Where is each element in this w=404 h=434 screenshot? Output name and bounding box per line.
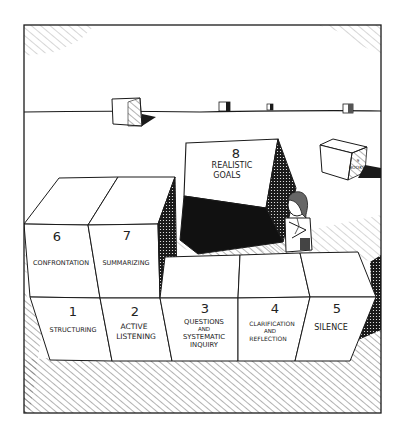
block-3-label-line1: QUESTIONS — [184, 318, 224, 326]
block-2-label-line1: ACTIVE — [121, 322, 148, 331]
block-3-label-line2: AND — [198, 326, 210, 332]
block-7-label: SUMMARIZING — [102, 259, 149, 267]
block-3-label-line3: SYSTEMATIC — [183, 333, 225, 341]
block-8-number: 8 — [232, 146, 240, 161]
block-5-number: 5 — [333, 301, 341, 316]
upper-row-blocks — [24, 177, 177, 298]
cartoon-illustration: 9 BOOKS — [0, 0, 404, 434]
block-4-number: 4 — [271, 301, 279, 316]
block-4-label-line1: CLARIFICATION — [249, 320, 294, 327]
books-box-number: 9 — [357, 158, 360, 163]
block-8-label-line2: GOALS — [213, 171, 240, 180]
block-8-label-line1: REALISTIC — [212, 161, 253, 170]
block-1-label: STRUCTURING — [50, 326, 97, 334]
block-4-label-line3: REFLECTION — [249, 335, 286, 342]
block-7-number: 7 — [123, 228, 131, 243]
block-5-label: SILENCE — [314, 323, 348, 332]
block-2-number: 2 — [131, 304, 139, 319]
scene: 9 BOOKS — [24, 25, 381, 413]
block-2-label-line2: LISTENING — [116, 332, 156, 341]
block-1-number: 1 — [69, 304, 77, 319]
block-6-label: CONFRONTATION — [33, 259, 89, 267]
books-box-label: BOOKS — [349, 165, 365, 170]
block-3-number: 3 — [201, 301, 209, 316]
block-3-label-line4: INQUIRY — [190, 341, 219, 349]
block-6-number: 6 — [53, 229, 61, 244]
block-4-label-line2: AND — [264, 328, 276, 334]
